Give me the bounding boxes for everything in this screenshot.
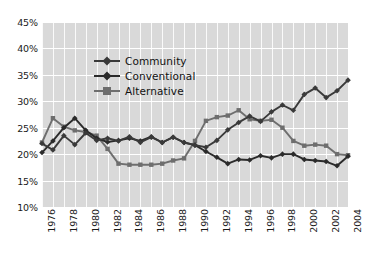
data-point-marker [73, 128, 77, 132]
legend-swatch-icon [94, 55, 120, 67]
y-axis-tick: 25% [17, 122, 38, 133]
gridline-horizontal [42, 207, 348, 208]
x-axis-tick: 1996 [265, 209, 276, 233]
data-point-marker [335, 152, 339, 156]
x-axis-tick: 2004 [352, 209, 363, 233]
legend-label: Community [125, 55, 187, 67]
data-point-marker [312, 158, 318, 164]
y-axis-tick: 20% [17, 149, 38, 160]
data-point-marker [215, 115, 219, 119]
y-axis-tick-labels: 10%15%20%25%30%35%40%45% [0, 22, 38, 207]
legend-swatch-icon [94, 85, 120, 97]
data-point-marker [236, 157, 242, 163]
data-point-marker [280, 151, 286, 157]
x-axis-tick: 1990 [199, 209, 210, 233]
data-point-marker [51, 116, 55, 120]
y-axis-tick: 40% [17, 43, 38, 54]
data-point-marker [149, 163, 153, 167]
y-axis-tick: 10% [17, 202, 38, 213]
y-axis-tick: 15% [17, 175, 38, 186]
legend-label: Alternative [125, 85, 184, 97]
data-point-marker [138, 163, 142, 167]
data-point-marker [116, 161, 120, 165]
data-point-marker [280, 126, 284, 130]
data-point-marker [226, 113, 230, 117]
y-axis-tick: 45% [17, 17, 38, 28]
y-axis-tick: 30% [17, 96, 38, 107]
data-point-marker [160, 161, 164, 165]
x-axis-tick: 2002 [330, 209, 341, 233]
gridline-vertical [348, 22, 349, 207]
data-point-marker [127, 163, 131, 167]
series-line-alternative [42, 110, 348, 164]
chart-figure: 10%15%20%25%30%35%40%45% CommunityConven… [0, 0, 369, 255]
data-point-marker [323, 159, 329, 165]
x-axis-tick: 1984 [133, 209, 144, 233]
x-axis-tick: 1998 [286, 209, 297, 233]
x-axis-tick: 1988 [177, 209, 188, 233]
legend-item-alternative[interactable]: Alternative [94, 84, 195, 98]
legend-swatch-icon [94, 70, 120, 82]
data-point-marker [302, 143, 306, 147]
data-point-marker [116, 138, 122, 144]
data-point-marker [258, 153, 264, 159]
chart-legend: CommunityConventionalAlternative [94, 54, 195, 99]
x-axis-tick: 1982 [112, 209, 123, 233]
data-point-marker [247, 157, 253, 163]
x-axis-tick: 1976 [46, 209, 57, 233]
legend-label: Conventional [125, 70, 195, 82]
x-axis-tick: 1980 [90, 209, 101, 233]
y-axis-tick: 35% [17, 69, 38, 80]
series-lines [42, 22, 348, 207]
x-axis-tick: 2000 [308, 209, 319, 233]
data-point-marker [291, 139, 295, 143]
data-point-marker [324, 143, 328, 147]
data-point-marker [171, 158, 175, 162]
data-point-marker [182, 156, 186, 160]
data-point-marker [269, 118, 273, 122]
plot-area: CommunityConventionalAlternative [42, 22, 348, 207]
data-point-marker [105, 135, 111, 141]
x-axis-tick: 1986 [155, 209, 166, 233]
x-axis-tick: 1978 [68, 209, 79, 233]
data-point-marker [105, 147, 109, 151]
legend-item-community[interactable]: Community [94, 54, 195, 68]
data-point-marker [269, 155, 275, 161]
data-point-marker [313, 142, 317, 146]
x-axis-tick: 1992 [221, 209, 232, 233]
x-axis-tick: 1994 [243, 209, 254, 233]
x-axis-tick-labels: 1976197819801982198419861988199019921994… [42, 209, 348, 255]
data-point-marker [204, 119, 208, 123]
legend-item-conventional[interactable]: Conventional [94, 69, 195, 83]
data-point-marker [237, 108, 241, 112]
